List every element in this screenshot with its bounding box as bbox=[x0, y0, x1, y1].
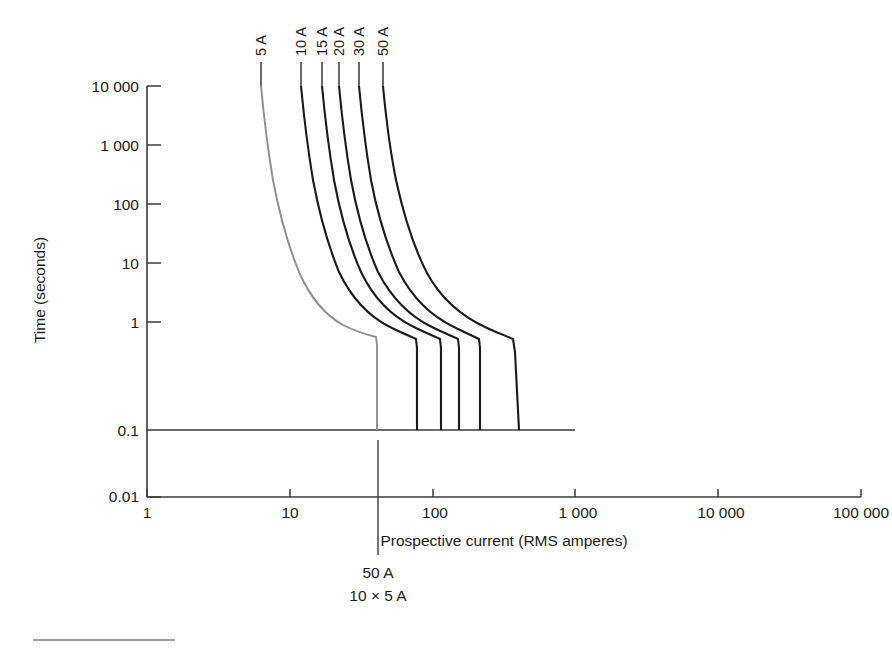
curve-50a bbox=[383, 86, 519, 430]
curve-5a bbox=[261, 86, 377, 430]
curve-label-50a: 50 A bbox=[375, 27, 391, 56]
y-axis-title: Time (seconds) bbox=[31, 237, 48, 343]
x-tick-label-100: 100 bbox=[422, 504, 448, 521]
y-tick-label-10000: 10 000 bbox=[92, 78, 140, 95]
x-tick-label-1: 1 bbox=[143, 504, 152, 521]
curve-label-10a: 10 A bbox=[293, 27, 309, 56]
annotation-10x5a: 10 × 5 A bbox=[349, 587, 407, 604]
y-tick-label-1: 1 bbox=[130, 314, 139, 331]
curve-label-5a: 5 A bbox=[253, 35, 269, 56]
y-tick-label-0.1: 0.1 bbox=[117, 422, 139, 439]
x-tick-label-100000: 100 000 bbox=[833, 504, 889, 521]
annotation-50a: 50 A bbox=[362, 564, 394, 581]
curve-label-30a: 30 A bbox=[351, 27, 367, 56]
y-tick-label-1000: 1 000 bbox=[100, 137, 139, 154]
chart-figure: 10 000 1 000 100 10 1 0.1 0.01 1 10 100 … bbox=[0, 0, 892, 648]
curve-15a bbox=[322, 86, 441, 430]
x-tick-label-10: 10 bbox=[281, 504, 299, 521]
curve-label-15a: 15 A bbox=[314, 27, 330, 56]
y-tick-label-10: 10 bbox=[122, 255, 140, 272]
chart-svg: 10 000 1 000 100 10 1 0.1 0.01 1 10 100 … bbox=[0, 0, 892, 648]
x-axis-title: Prospective current (RMS amperes) bbox=[380, 532, 627, 549]
y-tick-label-100: 100 bbox=[113, 196, 139, 213]
x-tick-label-10000: 10 000 bbox=[697, 504, 745, 521]
curve-10a bbox=[301, 86, 417, 430]
y-tick-label-0.01: 0.01 bbox=[109, 488, 139, 505]
x-tick-label-1000: 1 000 bbox=[559, 504, 598, 521]
curve-label-20a: 20 A bbox=[331, 27, 347, 56]
